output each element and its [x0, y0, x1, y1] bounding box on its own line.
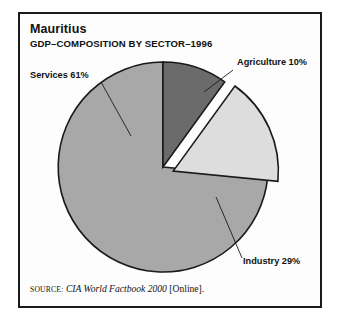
source-note: SOURCE: CIA World Factbook 2000 [Online]…: [30, 283, 204, 294]
figure-page: Mauritius GDP–COMPOSITION BY SECTOR–1996…: [0, 0, 338, 322]
pie-label-agriculture: Agriculture 10%: [237, 57, 307, 67]
pie-label-industry: Industry 29%: [243, 256, 300, 266]
source-prefix: SOURCE:: [30, 285, 63, 294]
source-suffix: [Online].: [169, 283, 204, 294]
pie-label-services: Services 61%: [30, 70, 89, 80]
source-work-title: CIA World Factbook 2000: [66, 283, 167, 294]
pie-chart: [0, 0, 338, 322]
